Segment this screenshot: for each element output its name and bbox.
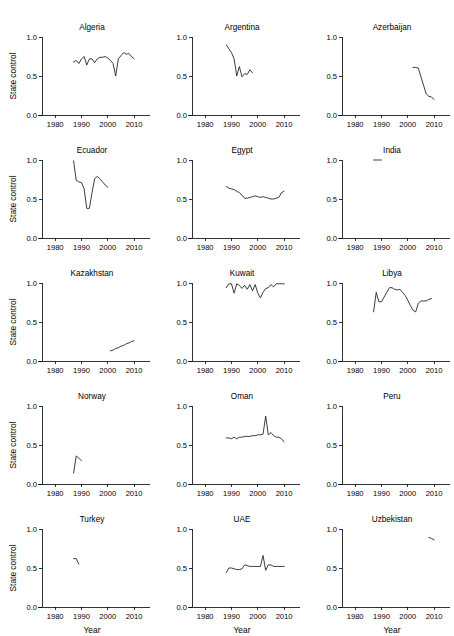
x-tick-label: 1980: [197, 489, 214, 498]
series-line-kuwait: [226, 284, 284, 298]
x-tick-label: 2000: [249, 243, 266, 252]
x-tick-label: 1980: [347, 120, 364, 129]
series-line-oman: [226, 416, 284, 442]
panel-turkey: Turkey0.00.51.01980199020002010State con…: [8, 515, 150, 635]
x-tick-label: 2010: [276, 243, 293, 252]
y-tick-label: 0.0: [176, 480, 187, 489]
series-line-turkey: [74, 559, 79, 564]
x-tick-label: 2000: [99, 489, 116, 498]
panel-libya: Libya0.00.51.01980199020002010: [326, 269, 450, 375]
x-tick-label: 2010: [426, 243, 443, 252]
panel-argentina: Argentina0.00.51.01980199020002010: [176, 23, 300, 129]
panel-title-kuwait: Kuwait: [230, 269, 255, 278]
x-tick-label: 1990: [373, 120, 390, 129]
y-tick-label: 0.5: [26, 564, 37, 573]
x-tick-label: 2010: [276, 489, 293, 498]
x-tick-label: 2010: [126, 489, 143, 498]
x-tick-label: 1990: [73, 243, 90, 252]
series-line-libya: [374, 288, 432, 312]
panel-norway: Norway0.00.51.01980199020002010State con…: [8, 392, 150, 498]
x-tick-label: 1990: [223, 489, 240, 498]
y-tick-label: 0.5: [26, 318, 37, 327]
y-tick-label: 0.0: [326, 234, 337, 243]
x-tick-label: 2010: [426, 366, 443, 375]
panel-india: India0.00.51.01980199020002010: [326, 146, 450, 252]
y-tick-label: 1.0: [176, 156, 187, 165]
y-axis-title: State control: [8, 298, 18, 345]
x-tick-label: 2000: [249, 612, 266, 621]
x-tick-label: 2010: [126, 612, 143, 621]
y-tick-label: 0.0: [26, 603, 37, 612]
x-tick-label: 2010: [276, 612, 293, 621]
small-multiples-plot: Algeria0.00.51.01980199020002010State co…: [0, 0, 454, 636]
panel-title-algeria: Algeria: [79, 23, 105, 32]
x-tick-label: 1990: [373, 243, 390, 252]
x-tick-label: 2010: [426, 612, 443, 621]
x-tick-label: 2000: [99, 612, 116, 621]
x-tick-label: 1980: [47, 120, 64, 129]
x-tick-label: 2000: [249, 366, 266, 375]
x-tick-label: 1980: [347, 612, 364, 621]
y-tick-label: 1.0: [176, 525, 187, 534]
y-tick-label: 0.5: [326, 441, 337, 450]
series-line-azerbaijan: [413, 67, 434, 99]
panel-uzbekistan: Uzbekistan0.00.51.01980199020002010Year: [326, 515, 450, 635]
figure-container: Algeria0.00.51.01980199020002010State co…: [0, 0, 454, 636]
series-line-norway: [74, 456, 82, 473]
y-tick-label: 0.0: [176, 234, 187, 243]
panel-uae: UAE0.00.51.01980199020002010Year: [176, 515, 300, 635]
y-tick-label: 0.0: [26, 234, 37, 243]
y-tick-label: 1.0: [176, 279, 187, 288]
x-tick-label: 1990: [73, 120, 90, 129]
x-tick-label: 1980: [197, 612, 214, 621]
panel-title-uae: UAE: [234, 515, 251, 524]
y-tick-label: 1.0: [326, 279, 337, 288]
y-tick-label: 0.5: [176, 72, 187, 81]
panel-title-peru: Peru: [383, 392, 401, 401]
x-tick-label: 1990: [73, 366, 90, 375]
x-tick-label: 1990: [373, 366, 390, 375]
x-tick-label: 1980: [197, 120, 214, 129]
panel-algeria: Algeria0.00.51.01980199020002010State co…: [8, 23, 150, 129]
panel-kazakhstan: Kazakhstan0.00.51.01980199020002010State…: [8, 269, 150, 375]
panel-title-india: India: [383, 146, 401, 155]
panel-peru: Peru0.00.51.01980199020002010: [326, 392, 450, 498]
x-tick-label: 1980: [47, 243, 64, 252]
panel-kuwait: Kuwait0.00.51.01980199020002010: [176, 269, 300, 375]
y-tick-label: 1.0: [26, 33, 37, 42]
y-tick-label: 1.0: [26, 402, 37, 411]
y-tick-label: 1.0: [26, 525, 37, 534]
y-tick-label: 1.0: [176, 33, 187, 42]
x-tick-label: 1990: [73, 612, 90, 621]
x-tick-label: 1990: [73, 489, 90, 498]
y-tick-label: 0.0: [176, 603, 187, 612]
x-tick-label: 2010: [126, 366, 143, 375]
x-tick-label: 1980: [47, 612, 64, 621]
y-tick-label: 0.5: [326, 318, 337, 327]
x-tick-label: 1990: [223, 612, 240, 621]
y-tick-label: 0.0: [326, 357, 337, 366]
y-tick-label: 0.0: [326, 111, 337, 120]
x-tick-label: 1980: [347, 243, 364, 252]
x-tick-label: 2000: [399, 612, 416, 621]
series-line-ecuador: [74, 161, 108, 209]
y-tick-label: 1.0: [326, 156, 337, 165]
x-tick-label: 2000: [399, 489, 416, 498]
y-tick-label: 0.0: [176, 111, 187, 120]
y-tick-label: 0.0: [26, 357, 37, 366]
x-tick-label: 1990: [373, 489, 390, 498]
x-tick-label: 2000: [99, 243, 116, 252]
series-line-kazakhstan: [110, 341, 134, 351]
panel-oman: Oman0.00.51.01980199020002010: [176, 392, 300, 498]
series-line-egypt: [226, 187, 284, 199]
series-line-uae: [226, 556, 284, 573]
panel-title-turkey: Turkey: [80, 515, 106, 524]
panel-azerbaijan: Azerbaijan0.00.51.01980199020002010: [326, 23, 450, 129]
y-tick-label: 1.0: [26, 156, 37, 165]
panel-title-egypt: Egypt: [232, 146, 254, 155]
y-tick-label: 0.5: [26, 195, 37, 204]
x-tick-label: 1990: [223, 366, 240, 375]
y-tick-label: 0.0: [26, 111, 37, 120]
x-tick-label: 2000: [399, 120, 416, 129]
x-tick-label: 2010: [276, 366, 293, 375]
